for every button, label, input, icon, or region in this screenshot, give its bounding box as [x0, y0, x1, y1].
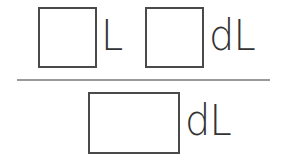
divider-line [17, 79, 270, 81]
deciliters-answer-box[interactable] [145, 7, 204, 68]
liters-unit-label: L [101, 15, 122, 57]
liters-answer-box[interactable] [38, 7, 97, 68]
total-deciliters-unit-label: dL [185, 100, 231, 142]
total-deciliters-answer-box[interactable] [88, 92, 180, 154]
deciliters-unit-label: dL [209, 15, 255, 57]
